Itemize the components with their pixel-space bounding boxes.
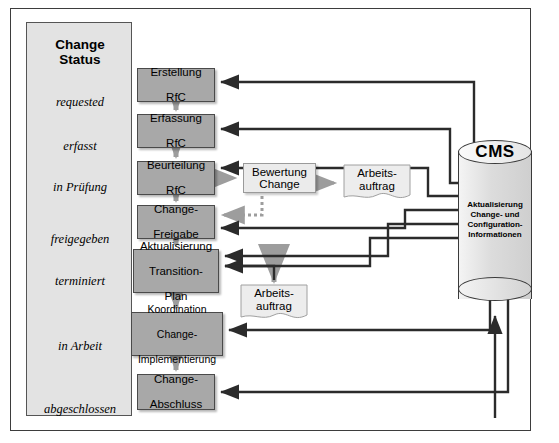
koordination-line2: Change- — [136, 328, 218, 341]
bewertung-change-line2: Change — [259, 178, 299, 190]
arbeitsauftrag-1-label: Arbeits- auftrag — [343, 164, 411, 195]
transition-plan-line3: Plan — [138, 290, 214, 303]
arbeitsauftrag-2-label: Arbeits- auftrag — [240, 284, 308, 315]
erfassung-rfc-line2: RfC — [148, 137, 204, 150]
transition-plan-line1: Aktualisierung — [138, 240, 214, 253]
beurteilung-rfc-line1: Beurteilung — [145, 159, 207, 172]
transition-plan-line2: Transition- — [138, 265, 214, 278]
document-arbeitsauftrag-1[interactable]: Arbeits- auftrag — [343, 164, 411, 204]
cms-title: CMS — [458, 139, 532, 165]
cms-caption-line2: Change- und — [471, 210, 520, 219]
cms-caption-line4: Informationen — [468, 230, 521, 239]
change-abschluss-line1: Change- — [148, 373, 204, 386]
arbeitsauftrag-1-line2: auftrag — [359, 180, 395, 192]
document-arbeitsauftrag-2[interactable]: Arbeits- auftrag — [240, 284, 308, 324]
erfassung-rfc-line1: Erfassung — [148, 112, 204, 125]
bewertung-change-line1: Bewertung — [252, 166, 307, 178]
dotted-arrow-bewertung-to-freigabe — [222, 196, 262, 215]
wire-transition-to-arbeitsauftrag — [225, 266, 274, 280]
wire-cms-to-transition-2 — [225, 238, 474, 266]
wire-cms-to-freigabe — [221, 210, 474, 228]
arbeitsauftrag-2-line2: auftrag — [256, 300, 292, 312]
cms-database-cylinder[interactable]: CMS Aktualisierung Change- und Configura… — [458, 140, 532, 310]
cms-caption-line1: Aktualisierung — [467, 200, 523, 209]
process-box-beurteilung-rfc[interactable]: Beurteilung RfC — [137, 161, 215, 195]
box-bewertung-change[interactable]: Bewertung Change — [243, 163, 316, 193]
erstellung-rfc-line1: Erstellung — [148, 66, 203, 79]
arbeitsauftrag-1-line1: Arbeits- — [357, 167, 397, 179]
cms-caption-line3: Configuration- — [467, 220, 522, 229]
diagram-canvas: Change Status requested erfasst in Prüfu… — [0, 0, 559, 443]
process-box-change-abschluss[interactable]: Change- Abschluss — [137, 374, 215, 410]
cms-caption: Aktualisierung Change- und Configuration… — [460, 200, 530, 240]
erstellung-rfc-line2: RfC — [148, 91, 203, 104]
change-freigabe-line1: Change- — [151, 203, 200, 216]
arbeitsauftrag-2-line1: Arbeits- — [254, 287, 294, 299]
koordination-line1: Koordination — [136, 303, 218, 316]
process-box-erfassung-rfc[interactable]: Erfassung RfC — [137, 114, 215, 148]
process-box-erstellung-rfc[interactable]: Erstellung RfC — [137, 68, 215, 102]
cms-cylinder-bottom — [458, 277, 532, 301]
change-abschluss-line2: Abschluss — [148, 398, 204, 411]
beurteilung-rfc-line2: RfC — [145, 184, 207, 197]
process-box-change-freigabe[interactable]: Change- Freigabe — [137, 205, 215, 239]
process-box-aktualisierung-transition-plan[interactable]: Aktualisierung Transition- Plan — [133, 249, 219, 293]
koordination-line3: Implementierung — [136, 353, 218, 366]
process-box-koordination-change-implementierung[interactable]: Koordination Change- Implementierung — [131, 312, 223, 356]
